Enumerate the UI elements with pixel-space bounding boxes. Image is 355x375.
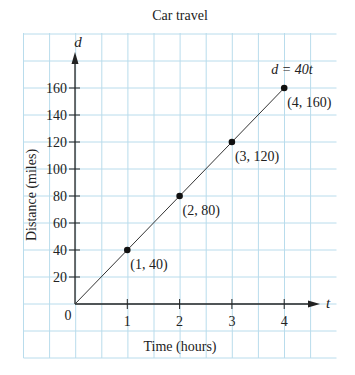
data-point-label: (2, 80) [183, 203, 221, 219]
chart-title: Car travel [152, 8, 208, 23]
data-series: (1, 40)(2, 80)(3, 120)(4, 160) [75, 85, 332, 304]
data-point-label: (1, 40) [130, 257, 168, 273]
y-axis-label: Distance (miles) [24, 149, 40, 241]
car-travel-chart: Car travel 123420406080100120140160 (1, … [0, 0, 355, 375]
y-axis-arrow-icon [72, 52, 79, 64]
axis-ticks: 123420406080100120140160 [46, 81, 288, 329]
y-tick-label: 40 [53, 243, 67, 258]
data-point [176, 193, 183, 200]
y-tick-label: 80 [53, 189, 67, 204]
x-tick-label: 2 [176, 314, 183, 329]
data-point [229, 139, 236, 146]
data-point-label: (3, 120) [235, 149, 280, 165]
x-axis-label: Time (hours) [144, 339, 217, 355]
y-tick-label: 120 [46, 135, 67, 150]
equation-label: d = 40t [271, 62, 313, 77]
data-point [124, 247, 131, 254]
origin-label: 0 [65, 308, 72, 323]
x-axis-variable: t [326, 295, 331, 311]
x-axis-arrow-icon [308, 301, 320, 308]
y-tick-label: 140 [46, 108, 67, 123]
x-tick-label: 3 [228, 314, 235, 329]
y-tick-label: 60 [53, 216, 67, 231]
data-point [281, 85, 288, 92]
y-axis-variable: d [74, 34, 82, 50]
y-tick-label: 100 [46, 162, 67, 177]
y-tick-label: 160 [46, 81, 67, 96]
x-tick-label: 4 [281, 314, 288, 329]
data-point-label: (4, 160) [287, 95, 332, 111]
x-tick-label: 1 [124, 314, 131, 329]
y-tick-label: 20 [53, 270, 67, 285]
